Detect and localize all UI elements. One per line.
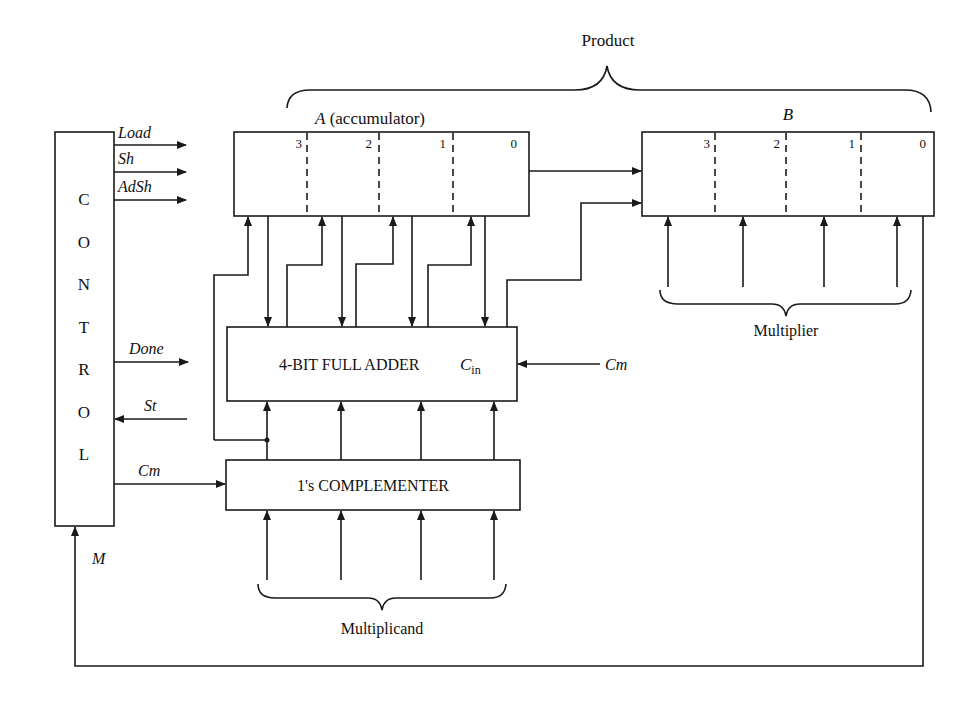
carry-out-to-b-arrow: [507, 203, 641, 327]
control-letter-c: C: [78, 190, 89, 209]
b-bit-3: 3: [704, 136, 711, 151]
multiplicand-input-arrows: [258, 511, 506, 610]
accumulator-register: [234, 132, 529, 216]
b-bit-2: 2: [774, 136, 781, 151]
a-bit-2: 2: [366, 136, 373, 151]
accumulator-label: A (accumulator): [314, 109, 425, 128]
control-letter-n: N: [78, 275, 90, 294]
register-b-label: B: [783, 105, 794, 124]
add-shift-signal-label: AdSh: [117, 178, 152, 195]
control-letter-l: L: [79, 445, 89, 464]
control-letter-r: R: [78, 360, 90, 379]
multiplicand-label: Multiplicand: [341, 620, 424, 638]
product-label: Product: [582, 31, 635, 50]
complementer-to-adder-arrows: [214, 402, 494, 460]
start-signal-label: St: [144, 397, 157, 414]
b-bit-1: 1: [849, 136, 856, 151]
multiplier-label: Multiplier: [754, 322, 820, 340]
control-letter-o: O: [78, 233, 90, 252]
b-bit-0: 0: [920, 136, 927, 151]
full-adder-label: 4-BIT FULL ADDER: [279, 356, 420, 373]
product-brace: [287, 66, 931, 112]
a-bit-0: 0: [511, 136, 518, 151]
m-signal-label: M: [91, 550, 107, 567]
load-signal-label: Load: [117, 124, 152, 141]
m-feedback-arrow: [75, 216, 923, 666]
multiplier-register-b: [642, 132, 934, 216]
a-bit-3: 3: [296, 136, 303, 151]
multiplier-block-diagram: Product A (accumulator) 3 2 1 0 B 3 2 1 …: [0, 0, 971, 702]
control-letter-t: T: [79, 318, 90, 337]
shift-signal-label: Sh: [118, 150, 134, 167]
accumulator-to-adder-arrows: [268, 216, 485, 326]
complementer-label: 1's COMPLEMENTER: [297, 477, 449, 494]
complement-signal-label: Cm: [138, 462, 160, 479]
control-letter-o2: O: [78, 403, 90, 422]
done-signal-label: Done: [128, 340, 164, 357]
a-bit-1: 1: [440, 136, 447, 151]
carry-in-signal-label: Cm: [605, 356, 627, 373]
multiplier-input-arrows: [660, 217, 911, 316]
